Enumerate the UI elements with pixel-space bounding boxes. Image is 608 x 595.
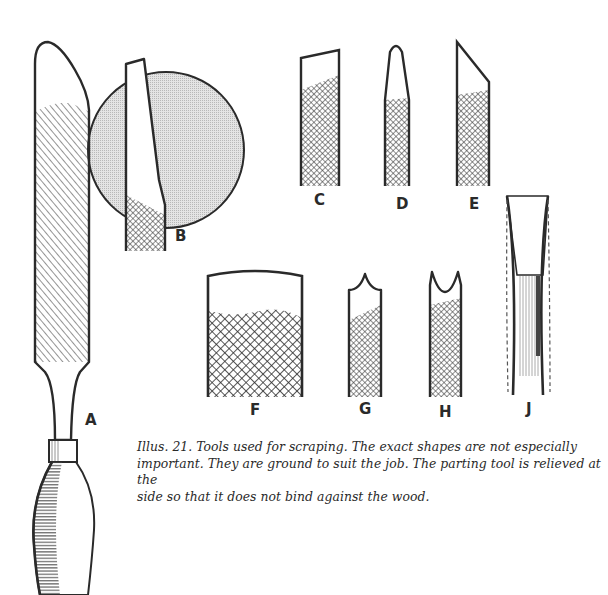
label-e: E bbox=[469, 197, 479, 212]
tool-d bbox=[385, 46, 409, 186]
tool-a bbox=[33, 42, 94, 595]
label-j: J bbox=[526, 402, 532, 417]
tool-c bbox=[301, 50, 339, 186]
figure-caption: Illus. 21. Tools used for scraping. The … bbox=[137, 439, 607, 505]
label-f: F bbox=[250, 403, 260, 418]
label-h: H bbox=[439, 405, 452, 420]
label-g: G bbox=[359, 402, 371, 417]
tool-f bbox=[208, 271, 302, 397]
caption-line-3: side so that it does not bind against th… bbox=[137, 489, 607, 506]
label-c: C bbox=[314, 193, 325, 208]
label-a: A bbox=[85, 413, 97, 428]
tool-g bbox=[349, 274, 381, 397]
scraping-tools-illustration bbox=[0, 0, 608, 595]
tool-h bbox=[430, 272, 461, 397]
tool-e bbox=[457, 42, 489, 186]
tool-j bbox=[507, 196, 550, 395]
caption-line-1: Illus. 21. Tools used for scraping. The … bbox=[137, 439, 607, 456]
caption-line-2: important. They are ground to suit the j… bbox=[137, 456, 607, 489]
label-d: D bbox=[396, 197, 408, 212]
label-b: B bbox=[175, 229, 186, 244]
